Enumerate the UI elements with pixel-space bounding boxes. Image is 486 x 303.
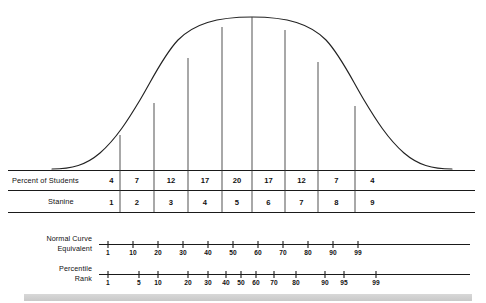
percent-cell-1: 4: [103, 176, 120, 185]
percentile-label-70: 70: [264, 279, 284, 286]
stanine-cell-7: 7: [285, 198, 318, 207]
stanine-cell-5: 5: [222, 198, 252, 207]
row-label-stanine: Stanine: [48, 197, 74, 206]
stanine-cell-8: 8: [318, 198, 355, 207]
nce-label-70: 70: [273, 249, 293, 256]
percentile-label-20: 20: [178, 279, 198, 286]
percentile-label-99: 99: [366, 279, 386, 286]
percent-cell-2: 7: [120, 176, 154, 185]
percent-cell-5: 20: [222, 176, 252, 185]
nce-label-50: 50: [223, 249, 243, 256]
nce-scale-label-line1: Normal Curve: [8, 234, 92, 244]
percentile-label-95: 95: [334, 279, 354, 286]
percentile-label-80: 80: [286, 279, 306, 286]
stanine-cell-3: 3: [154, 198, 188, 207]
percent-cell-8: 7: [318, 176, 355, 185]
percentile-scale-label-line1: Percentile: [8, 264, 92, 274]
nce-label-90: 90: [323, 249, 343, 256]
percent-cell-3: 12: [154, 176, 188, 185]
nce-label-40: 40: [198, 249, 218, 256]
stanine-cell-9: 9: [355, 198, 390, 207]
stanine-band-dividers: [120, 17, 355, 170]
percent-cell-6: 17: [252, 176, 285, 185]
percentile-label-1: 1: [98, 279, 118, 286]
nce-label-20: 20: [148, 249, 168, 256]
percent-cell-7: 12: [285, 176, 318, 185]
footer-band: [24, 294, 472, 301]
stanine-cell-1: 1: [103, 198, 120, 207]
stanine-cell-2: 2: [120, 198, 154, 207]
nce-label-99: 99: [348, 249, 368, 256]
percent-cell-9: 4: [355, 176, 390, 185]
nce-scale-label-line2: Equivalent: [8, 244, 92, 254]
nce-label-1: 1: [98, 249, 118, 256]
nce-label-30: 30: [173, 249, 193, 256]
percentile-label-90: 90: [315, 279, 335, 286]
nce-label-60: 60: [248, 249, 268, 256]
stanine-cell-4: 4: [188, 198, 222, 207]
stanine-cell-6: 6: [252, 198, 285, 207]
row-label-percent-of-students: Percent of Students: [12, 176, 79, 185]
percentile-scale-label: Percentile Rank: [8, 264, 92, 283]
nce-label-10: 10: [123, 249, 143, 256]
nce-label-80: 80: [298, 249, 318, 256]
stanine-normal-curve-figure: Percent of Students Stanine 471217201712…: [0, 0, 486, 303]
percentile-label-60: 60: [246, 279, 266, 286]
percentile-label-30: 30: [198, 279, 218, 286]
nce-scale-label: Normal Curve Equivalent: [8, 234, 92, 253]
percentile-label-10: 10: [148, 279, 168, 286]
percent-cell-4: 17: [188, 176, 222, 185]
percentile-label-5: 5: [129, 279, 149, 286]
figure-vector-layer: [0, 0, 486, 303]
percentile-scale-label-line2: Rank: [8, 274, 92, 284]
